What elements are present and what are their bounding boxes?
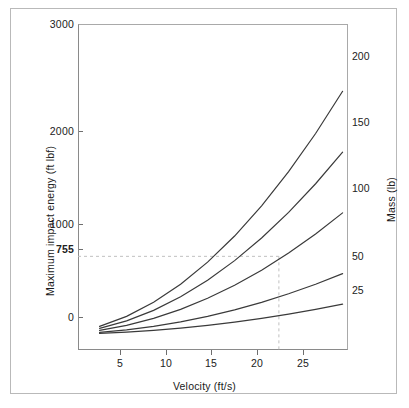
- x-tick-mark-15: [211, 350, 212, 355]
- y-tick-label-1000: 1000: [18, 218, 74, 230]
- x-tick-label-15: 15: [191, 357, 231, 369]
- mass-curve-label-50: 50: [352, 250, 364, 262]
- guide-lines: [78, 256, 279, 350]
- right-axis-title: Mass (lb): [385, 177, 397, 222]
- x-tick-mark-20: [257, 350, 258, 355]
- x-axis-title: Velocity (ft/s): [0, 380, 409, 392]
- mass-curve-label-25: 25: [352, 284, 364, 296]
- mass-curve-label-200: 200: [352, 50, 370, 62]
- mass-curve-label-100: 100: [352, 182, 370, 194]
- x-tick-label-10: 10: [146, 357, 186, 369]
- x-tick-label-20: 20: [237, 357, 277, 369]
- x-tick-mark-5: [120, 350, 121, 355]
- y-tick-label-755: 755: [18, 243, 74, 255]
- y-tick-label-0: 0: [18, 311, 74, 323]
- chart-figure: Maximum impact energy (ft lbf) Mass (lb)…: [0, 0, 409, 408]
- y-tick-label-3000: 3000: [18, 18, 74, 30]
- x-tick-label-5: 5: [100, 357, 140, 369]
- x-tick-mark-25: [303, 350, 304, 355]
- x-tick-label-25: 25: [283, 357, 323, 369]
- x-tick-mark-10: [166, 350, 167, 355]
- series-paths: [100, 91, 343, 333]
- plot-area: [78, 24, 348, 350]
- y-tick-label-2000: 2000: [18, 125, 74, 137]
- mass-curve-label-150: 150: [352, 116, 370, 128]
- curves-layer: [78, 24, 348, 350]
